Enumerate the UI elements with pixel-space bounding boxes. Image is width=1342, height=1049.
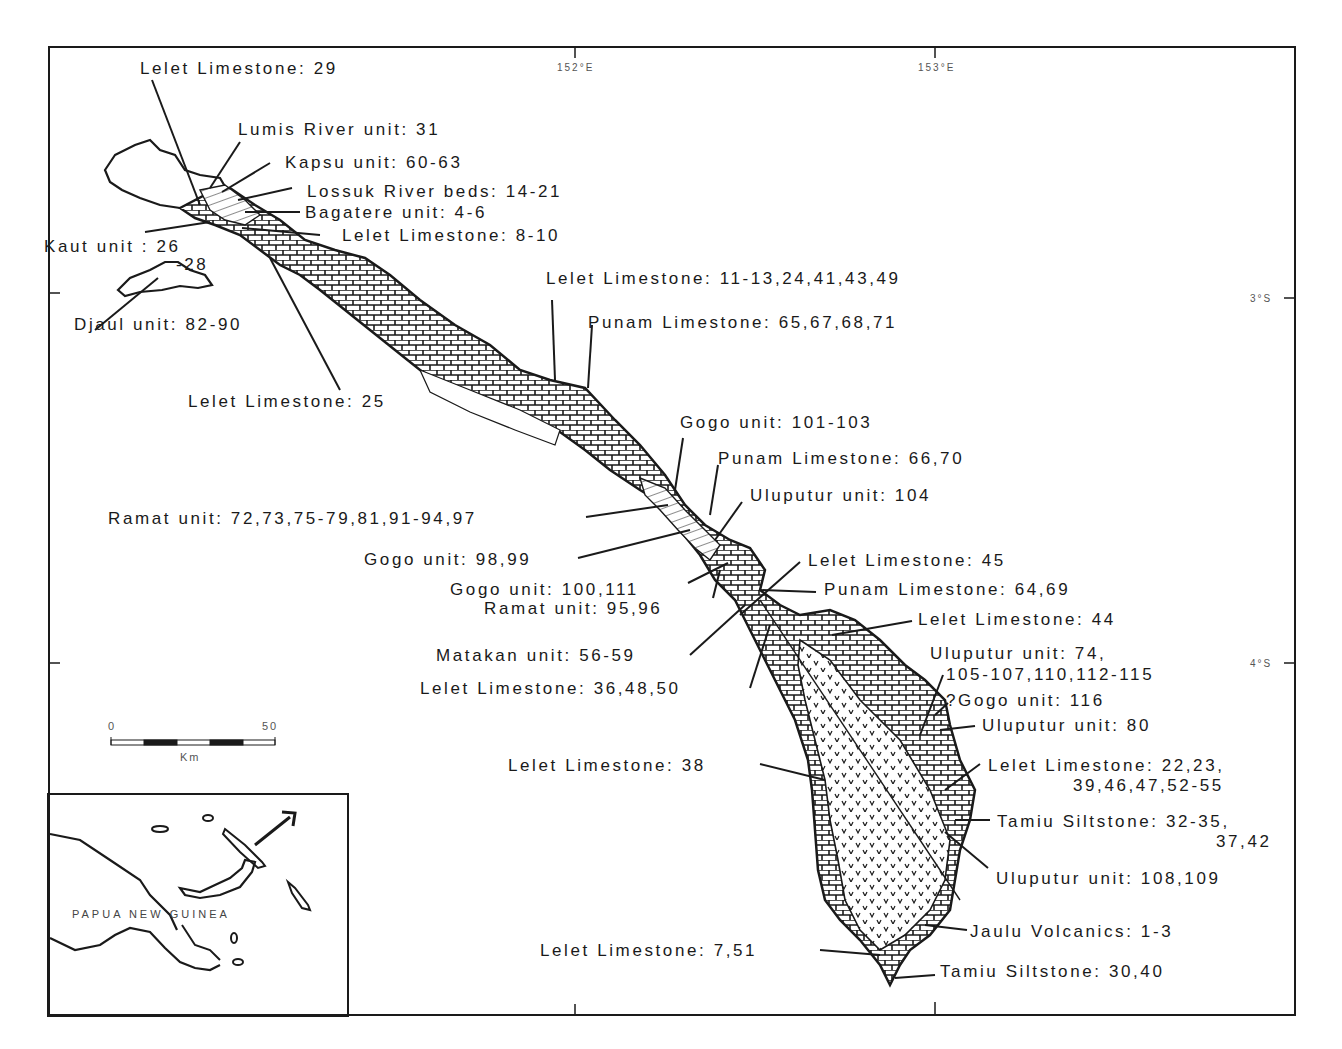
label-uluputur-108-109: Uluputur unit: 108,109 bbox=[996, 870, 1221, 887]
longitude-tick-153: 153°E bbox=[918, 62, 955, 73]
label-lelet-45: Lelet Limestone: 45 bbox=[808, 552, 1006, 569]
label-uluputur-74-cont: 105-107,110,112-115 bbox=[946, 666, 1154, 683]
label-lelet-11-49: Lelet Limestone: 11-13,24,41,43,49 bbox=[546, 270, 901, 287]
label-lumis-river: Lumis River unit: 31 bbox=[238, 121, 440, 138]
label-uluputur-74: Uluputur unit: 74, bbox=[930, 645, 1106, 662]
label-gogo-116: ?Gogo unit: 116 bbox=[946, 692, 1105, 709]
label-lossuk-river: Lossuk River beds: 14-21 bbox=[307, 183, 562, 200]
label-lelet-22-55: Lelet Limestone: 22,23, bbox=[988, 757, 1225, 774]
scale-start: 0 bbox=[108, 720, 116, 732]
label-kaut: Kaut unit : 26 bbox=[44, 238, 181, 255]
scale-end: 50 bbox=[262, 720, 278, 732]
label-lelet-7-51: Lelet Limestone: 7,51 bbox=[540, 942, 757, 959]
label-punam-66-70: Punam Limestone: 66,70 bbox=[718, 450, 964, 467]
label-jaulu-volcanics: Jaulu Volcanics: 1-3 bbox=[970, 923, 1173, 940]
scale-unit: Km bbox=[180, 751, 201, 763]
label-punam-65-71: Punam Limestone: 65,67,68,71 bbox=[588, 314, 897, 331]
latitude-tick-3s: 3°S bbox=[1250, 293, 1272, 304]
label-bagatere: Bagatere unit: 4-6 bbox=[305, 204, 487, 221]
label-matakan: Matakan unit: 56-59 bbox=[436, 647, 636, 664]
label-tamiu-32-42: Tamiu Siltstone: 32-35, bbox=[997, 813, 1230, 830]
label-kapsu: Kapsu unit: 60-63 bbox=[285, 154, 462, 171]
latitude-tick-4s: 4°S bbox=[1250, 658, 1272, 669]
label-uluputur-80: Uluputur unit: 80 bbox=[982, 717, 1151, 734]
label-djaul: Djaul unit: 82-90 bbox=[74, 316, 242, 333]
label-gogo-98-99: Gogo unit: 98,99 bbox=[364, 551, 531, 568]
label-kaut-cont: -28 bbox=[176, 256, 208, 273]
label-lelet-8-10: Lelet Limestone: 8-10 bbox=[342, 227, 560, 244]
label-lelet-22-55-cont: 39,46,47,52-55 bbox=[1073, 777, 1224, 794]
label-uluputur-104: Uluputur unit: 104 bbox=[750, 487, 931, 504]
label-lelet-36-50: Lelet Limestone: 36,48,50 bbox=[420, 680, 681, 697]
label-punam-64-69: Punam Limestone: 64,69 bbox=[824, 581, 1070, 598]
label-tamiu-30-40: Tamiu Siltstone: 30,40 bbox=[940, 963, 1164, 980]
inset-country-label: PAPUA NEW GUINEA bbox=[72, 908, 230, 920]
label-gogo-101-103: Gogo unit: 101-103 bbox=[680, 414, 872, 431]
label-lelet-44: Lelet Limestone: 44 bbox=[918, 611, 1116, 628]
label-ramat-72-97: Ramat unit: 72,73,75-79,81,91-94,97 bbox=[108, 510, 477, 527]
longitude-tick-152: 152°E bbox=[557, 62, 594, 73]
label-tamiu-32-42-cont: 37,42 bbox=[1216, 833, 1272, 850]
label-lelet-25: Lelet Limestone: 25 bbox=[188, 393, 386, 410]
label-lelet-38: Lelet Limestone: 38 bbox=[508, 757, 706, 774]
label-gogo-100-111: Gogo unit: 100,111 bbox=[450, 581, 639, 598]
label-ramat-95-96: Ramat unit: 95,96 bbox=[484, 600, 662, 617]
label-lelet-29: Lelet Limestone: 29 bbox=[140, 60, 338, 77]
